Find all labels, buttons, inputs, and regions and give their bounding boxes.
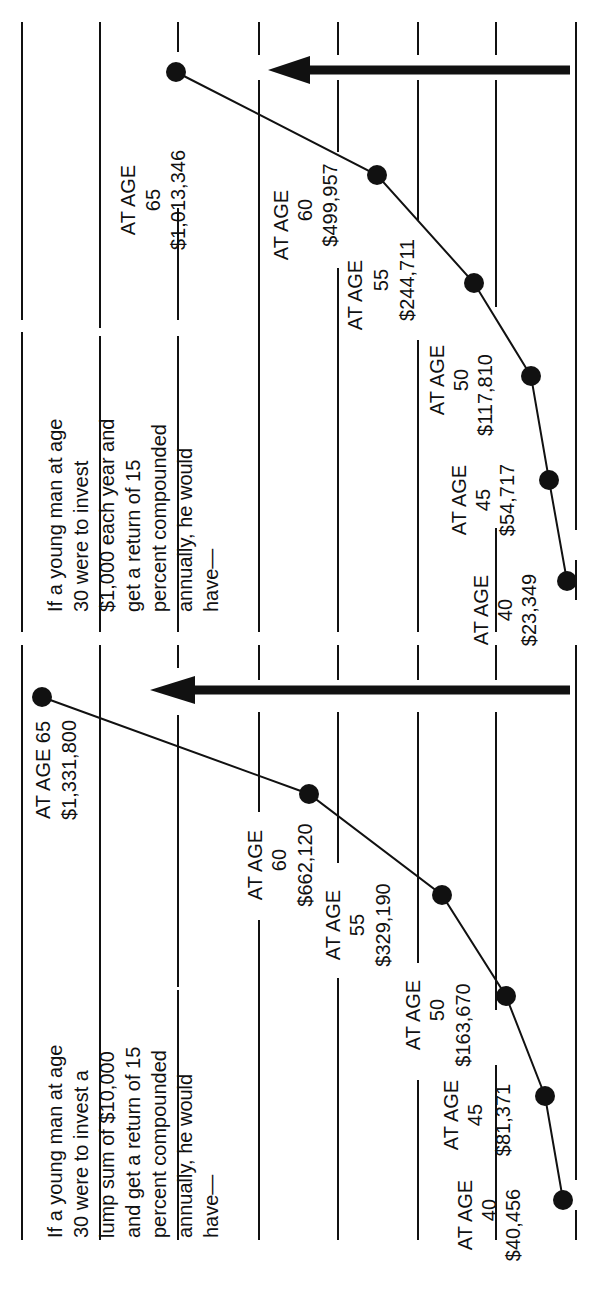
- panel-annual-investment: AT AGE 65 $1,013,346 AT AGE 60 $499,957 …: [22, 22, 577, 646]
- svg-text:$499,957: $499,957: [319, 163, 341, 246]
- point-label-40: AT AGE 40 $40,456: [454, 1180, 524, 1261]
- svg-text:AT AGE: AT AGE: [270, 190, 292, 260]
- svg-text:50: 50: [450, 369, 472, 391]
- svg-text:AT AGE: AT AGE: [454, 1180, 476, 1250]
- svg-text:AT AGE: AT AGE: [470, 575, 492, 645]
- svg-text:55: 55: [370, 269, 392, 291]
- svg-text:30 were to invest: 30 were to invest: [70, 460, 92, 612]
- svg-text:$117,810: $117,810: [474, 354, 496, 436]
- svg-text:annually, he would: annually, he would: [174, 448, 196, 612]
- point-label-65: AT AGE 65 $1,331,800: [32, 720, 80, 820]
- point-label-45: AT AGE 45 $54,717: [448, 464, 518, 536]
- svg-text:$54,717: $54,717: [496, 464, 518, 536]
- svg-text:45: 45: [464, 1104, 486, 1126]
- growth-arrow-icon: [150, 676, 570, 704]
- svg-text:60: 60: [294, 199, 316, 221]
- svg-text:$23,349: $23,349: [518, 574, 540, 646]
- caption-lump-sum: If a young man at age 30 were to invest …: [44, 1045, 222, 1238]
- point-label-50: AT AGE 50 $163,670: [402, 980, 474, 1067]
- svg-text:$40,456: $40,456: [502, 1189, 524, 1261]
- point-label-50: AT AGE 50 $117,810: [426, 345, 496, 436]
- svg-text:have—: have—: [200, 1175, 222, 1238]
- point-label-55: AT AGE 55 $329,190: [322, 883, 394, 966]
- svg-text:percent compounded: percent compounded: [148, 424, 170, 612]
- point-label-60: AT AGE 60 $499,957: [270, 163, 341, 260]
- svg-text:$81,371: $81,371: [492, 1084, 514, 1156]
- point-label-40: AT AGE 40 $23,349: [470, 574, 540, 646]
- svg-text:$662,120: $662,120: [294, 823, 316, 906]
- svg-text:65: 65: [142, 189, 164, 211]
- point-label-60: AT AGE 60 $662,120: [244, 823, 316, 906]
- svg-text:$1,000 each year and: $1,000 each year and: [96, 419, 118, 613]
- svg-text:$163,670: $163,670: [452, 983, 474, 1066]
- svg-text:AT AGE: AT AGE: [440, 1080, 462, 1150]
- growth-arrow-icon: [268, 56, 570, 84]
- svg-text:annually, he would: annually, he would: [174, 1074, 196, 1238]
- svg-text:30 were to invest a: 30 were to invest a: [70, 1069, 92, 1238]
- svg-text:AT AGE: AT AGE: [117, 165, 139, 235]
- svg-text:AT AGE 65: AT AGE 65: [32, 721, 54, 819]
- svg-text:50: 50: [426, 999, 448, 1021]
- caption-annual: If a young man at age 30 were to invest …: [44, 419, 222, 613]
- svg-text:$329,190: $329,190: [372, 883, 394, 966]
- svg-text:40: 40: [494, 599, 516, 621]
- svg-text:AT AGE: AT AGE: [426, 345, 448, 415]
- svg-text:and get a return of 15: and get a return of 15: [122, 1047, 144, 1238]
- svg-text:AT AGE: AT AGE: [244, 830, 266, 900]
- point-label-55: AT AGE 55 $244,711: [344, 239, 418, 330]
- svg-text:45: 45: [472, 489, 494, 511]
- svg-text:percent compounded: percent compounded: [148, 1050, 170, 1238]
- svg-text:$1,331,800: $1,331,800: [58, 720, 80, 820]
- svg-text:60: 60: [268, 849, 290, 871]
- point-label-45: AT AGE 45 $81,371: [440, 1080, 514, 1156]
- svg-text:AT AGE: AT AGE: [402, 980, 424, 1050]
- svg-text:$244,711: $244,711: [396, 239, 418, 321]
- svg-text:have—: have—: [200, 549, 222, 612]
- svg-text:If a young man at age: If a young man at age: [44, 419, 66, 612]
- svg-text:AT AGE: AT AGE: [322, 890, 344, 960]
- svg-text:get a return of 15: get a return of 15: [122, 460, 144, 612]
- svg-text:AT AGE: AT AGE: [448, 465, 470, 535]
- svg-text:AT AGE: AT AGE: [344, 260, 366, 330]
- svg-text:55: 55: [346, 914, 368, 936]
- svg-text:If a young man at age: If a young man at age: [44, 1045, 66, 1238]
- investment-growth-figure: AT AGE 65 $1,013,346 AT AGE 60 $499,957 …: [0, 0, 598, 1304]
- svg-text:40: 40: [478, 1199, 500, 1221]
- svg-text:$1,013,346: $1,013,346: [167, 150, 189, 250]
- panel-lump-sum-investment: AT AGE 65 $1,331,800 AT AGE 60 $662,120 …: [22, 645, 576, 1261]
- svg-text:lump sum of $10,000: lump sum of $10,000: [96, 1051, 118, 1238]
- point-label-65: AT AGE 65 $1,013,346: [117, 150, 189, 250]
